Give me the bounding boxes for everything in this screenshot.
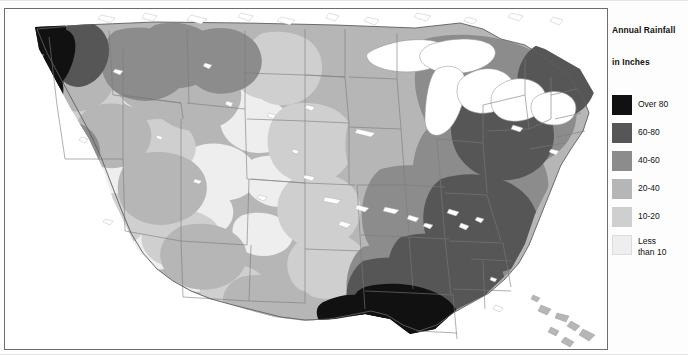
legend-label-over-80: Over 80 — [638, 95, 668, 110]
legend-item-40-60[interactable]: 40-60 — [612, 151, 686, 179]
legend-title-line-2: in Inches — [612, 57, 686, 68]
legend-swatch-10-20 — [612, 207, 632, 227]
legend-items: Over 80 60-80 40-60 20-40 10-20 Less tha — [612, 95, 686, 263]
legend-swatch-over-80 — [612, 95, 632, 115]
legend-item-less-than-10[interactable]: Less than 10 — [612, 235, 686, 263]
top-divider — [0, 0, 688, 1]
legend-item-60-80[interactable]: 60-80 — [612, 123, 686, 151]
map-svg — [5, 9, 607, 349]
map-legend: Annual Rainfall in Inches Over 80 60-80 … — [612, 4, 686, 263]
legend-label-40-60: 40-60 — [638, 151, 660, 166]
map-frame — [4, 8, 608, 350]
legend-item-10-20[interactable]: 10-20 — [612, 207, 686, 235]
legend-title: Annual Rainfall in Inches — [612, 4, 686, 88]
legend-title-line-1: Annual Rainfall — [612, 25, 686, 36]
legend-label-60-80: 60-80 — [638, 123, 660, 138]
legend-item-20-40[interactable]: 20-40 — [612, 179, 686, 207]
rainfall-map-page: Annual Rainfall in Inches Over 80 60-80 … — [0, 0, 688, 355]
legend-swatch-60-80 — [612, 123, 632, 143]
legend-label-less-than-10: Less than 10 — [638, 235, 666, 257]
legend-swatch-20-40 — [612, 179, 632, 199]
legend-label-10-20: 10-20 — [638, 207, 660, 222]
legend-item-over-80[interactable]: Over 80 — [612, 95, 686, 123]
legend-label-20-40: 20-40 — [638, 179, 660, 194]
rainfall-choropleth-map — [5, 9, 607, 349]
legend-swatch-less-than-10 — [612, 235, 632, 255]
legend-swatch-40-60 — [612, 151, 632, 171]
